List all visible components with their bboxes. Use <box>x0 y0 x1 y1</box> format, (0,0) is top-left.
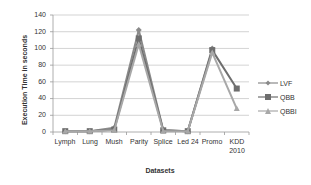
series-lines <box>62 27 240 134</box>
x-tick: KDD2010 <box>222 137 252 155</box>
series-qbbi <box>62 41 240 133</box>
gridlines <box>53 15 249 115</box>
square-marker-icon <box>258 93 278 101</box>
legend-item-lvf: LVF <box>258 76 297 90</box>
x-axis-title: Datasets <box>130 167 190 174</box>
legend-item-qbb: QBB <box>258 90 297 104</box>
triangle-marker-icon <box>258 107 278 115</box>
line-chart: Execution Time in seconds 140 120 100 80… <box>0 0 311 185</box>
legend: LVF QBB QBBI <box>258 76 297 118</box>
legend-item-qbbi: QBBI <box>258 104 297 118</box>
diamond-marker-icon <box>258 79 278 87</box>
